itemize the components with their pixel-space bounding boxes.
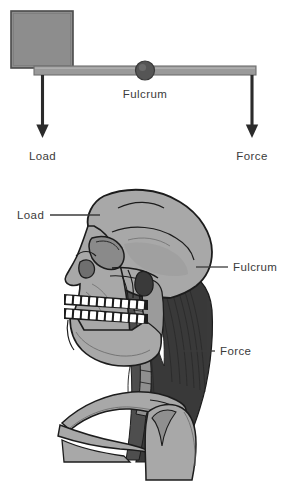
anatomy-force-label: Force — [220, 345, 251, 357]
lever-fulcrum-label: Fulcrum — [123, 88, 167, 100]
lever-load-label: Load — [29, 150, 56, 162]
lever-and-skull-figure: Fulcrum Load Force — [0, 0, 290, 490]
anatomy-fulcrum-label: Fulcrum — [233, 261, 277, 273]
scapula — [145, 405, 196, 480]
load-block — [11, 11, 73, 68]
anatomy-load-label: Load — [17, 209, 44, 221]
fulcrum-pivot — [136, 61, 155, 80]
fulcrum-highlight — [139, 64, 146, 71]
nasal-aperture — [79, 260, 95, 278]
lever-force-label: Force — [236, 150, 267, 162]
